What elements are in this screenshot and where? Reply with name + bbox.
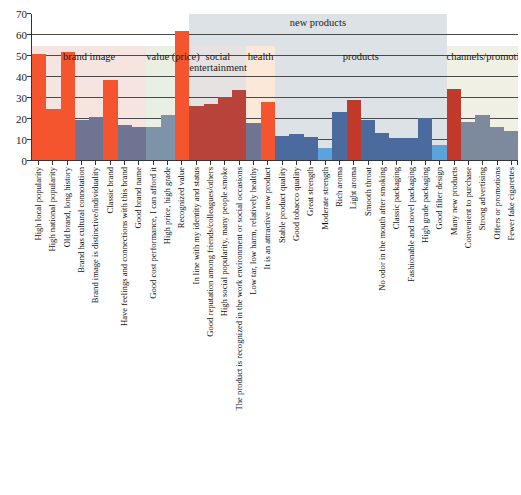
x-tick-mark xyxy=(396,161,397,165)
band-label: new products xyxy=(189,17,446,28)
bar[interactable] xyxy=(132,127,146,161)
bar[interactable] xyxy=(89,117,103,161)
x-tick-slot xyxy=(432,161,446,166)
bar[interactable] xyxy=(289,134,303,161)
bar[interactable] xyxy=(218,97,232,161)
bar[interactable] xyxy=(361,120,375,161)
x-label-slot: Good cost performance, I can afford it xyxy=(146,167,160,397)
bar-slot xyxy=(389,14,403,161)
y-tick-label: 0 xyxy=(22,155,32,167)
bar[interactable] xyxy=(275,136,289,161)
x-tick-slot xyxy=(332,161,346,166)
x-label-slot: Have feelings and connections with this … xyxy=(117,167,131,397)
x-tick-mark xyxy=(239,161,240,165)
x-label-slot: Classic brand xyxy=(103,167,117,397)
bar-slot xyxy=(275,14,289,161)
bar[interactable] xyxy=(461,122,475,161)
x-tick-mark xyxy=(153,161,154,165)
x-tick-mark xyxy=(439,161,440,165)
x-label-slot: In line with my identity and status xyxy=(189,167,203,397)
x-tick-slot xyxy=(74,161,88,166)
bar-slot xyxy=(146,14,160,161)
bar[interactable] xyxy=(246,123,260,161)
x-tick-mark xyxy=(181,161,182,165)
x-tick-slot xyxy=(375,161,389,166)
x-tick-mark xyxy=(196,161,197,165)
x-label-slot: Brand has cultural connotation xyxy=(74,167,88,397)
x-tick-mark xyxy=(468,161,469,165)
y-tick-mark xyxy=(27,34,31,35)
bar[interactable] xyxy=(32,54,46,161)
x-label-slot: Good brand name xyxy=(131,167,145,397)
y-tick-label: 60 xyxy=(16,29,31,41)
x-label-slot: Stable product quality xyxy=(275,167,289,397)
x-tick-slot xyxy=(103,161,117,166)
bar-slot xyxy=(175,14,189,161)
bar-slot xyxy=(418,14,432,161)
bar[interactable] xyxy=(204,104,218,161)
x-tick-label: Great strength xyxy=(306,167,315,216)
bar-slot xyxy=(61,14,75,161)
x-label-slot: The product is recognized in the work en… xyxy=(232,167,246,397)
x-tick-mark xyxy=(511,161,512,165)
bar[interactable] xyxy=(232,90,246,161)
x-tick-label: No odor in the mouth after smoking xyxy=(378,167,387,291)
bar[interactable] xyxy=(118,125,132,161)
x-tick-label: Moderate strength xyxy=(320,167,329,230)
bar[interactable] xyxy=(304,137,318,161)
bar[interactable] xyxy=(375,133,389,161)
bar[interactable] xyxy=(404,138,418,161)
bar[interactable] xyxy=(432,145,446,161)
x-label-slot: Convenient to purchase xyxy=(461,167,475,397)
bar[interactable] xyxy=(475,115,489,161)
x-tick-mark xyxy=(224,161,225,165)
bar-series xyxy=(32,14,518,161)
y-tick-mark xyxy=(27,76,31,77)
x-tick-mark xyxy=(138,161,139,165)
bar-slot xyxy=(461,14,475,161)
bar[interactable] xyxy=(389,138,403,161)
bar[interactable] xyxy=(504,131,518,161)
x-tick-mark xyxy=(454,161,455,165)
bar[interactable] xyxy=(161,115,175,161)
x-tick-label: Good cost performance, I can afford it xyxy=(148,167,157,299)
y-tick-mark xyxy=(27,97,31,98)
bar[interactable] xyxy=(46,109,60,162)
x-tick-label: High price, high grade xyxy=(163,167,172,244)
x-tick-mark xyxy=(296,161,297,165)
bar-slot xyxy=(89,14,103,161)
bar-slot xyxy=(332,14,346,161)
bar[interactable] xyxy=(75,120,89,161)
bar[interactable] xyxy=(189,106,203,161)
y-tick-label: 50 xyxy=(16,50,31,62)
bar-slot xyxy=(261,14,275,161)
x-axis-labels: High local popularityHigh national popul… xyxy=(31,167,518,397)
bar[interactable] xyxy=(332,112,346,161)
x-label-slot: Rich aroma xyxy=(332,167,346,397)
bar[interactable] xyxy=(447,89,461,161)
bar-slot xyxy=(432,14,446,161)
x-tick-mark xyxy=(110,161,111,165)
bar[interactable] xyxy=(146,127,160,161)
x-label-slot: Strong advertising xyxy=(475,167,489,397)
bar[interactable] xyxy=(103,80,117,161)
x-tick-slot xyxy=(203,161,217,166)
x-label-slot: Fewer fake cigarettes xyxy=(504,167,518,397)
band-label: value (price) xyxy=(146,51,189,62)
x-tick-slot xyxy=(361,161,375,166)
x-label-slot: Light aroma xyxy=(346,167,360,397)
bar[interactable] xyxy=(61,52,75,161)
bar[interactable] xyxy=(490,127,504,161)
x-tick-slot xyxy=(246,161,260,166)
x-tick-label: High social popularity, many people smok… xyxy=(220,167,229,316)
bar[interactable] xyxy=(261,102,275,161)
x-tick-label: Old brand, long history xyxy=(63,167,72,247)
x-tick-slot xyxy=(217,161,231,166)
bar-slot xyxy=(318,14,332,161)
x-label-slot: Offers or promotions xyxy=(490,167,504,397)
x-tick-slot xyxy=(131,161,145,166)
bar[interactable] xyxy=(418,118,432,161)
bar[interactable] xyxy=(347,100,361,161)
x-tick-slot xyxy=(60,161,74,166)
x-label-slot: High social popularity, many people smok… xyxy=(217,167,231,397)
